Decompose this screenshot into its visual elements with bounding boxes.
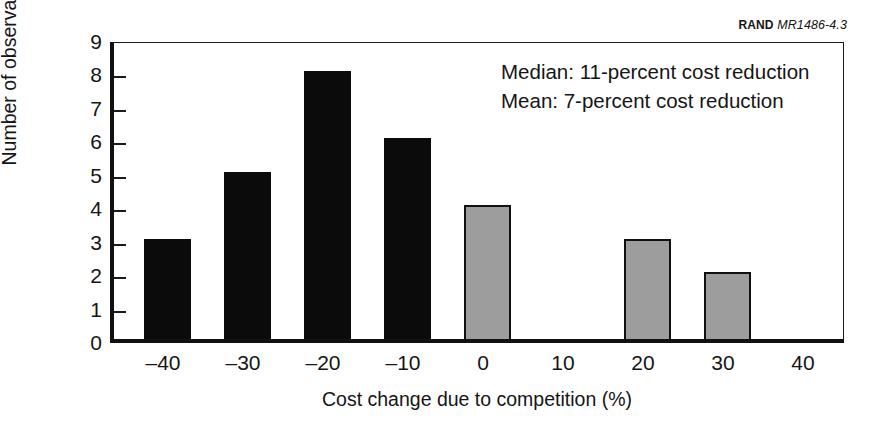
y-axis-tick-label: 4 [76,198,102,219]
mean-annotation: Mean: 7-percent cost reduction [501,86,809,115]
x-axis-tick-label: 10 [523,352,603,374]
y-axis-tick [114,177,126,179]
y-axis-tick [114,311,126,313]
x-axis-title: Cost change due to competition (%) [110,388,844,411]
x-axis-tick-label: 0 [443,352,523,374]
histogram-bar [304,71,351,339]
y-axis-tick-label: 3 [76,232,102,253]
x-axis-tick-label: 40 [763,352,843,374]
histogram-bar [624,239,671,339]
median-annotation: Median: 11-percent cost reduction [501,57,809,86]
y-axis-tick [114,244,126,246]
x-axis-tick-label: –30 [203,352,283,374]
y-axis-tick [114,76,126,78]
y-axis-tick-label: 0 [76,332,102,353]
rand-logotype: RAND [739,18,774,32]
document-id: MR1486-4.3 [777,18,847,32]
x-axis-tick-label: 20 [603,352,683,374]
y-axis-tick-label: 7 [76,98,102,119]
y-axis-tick-label: 9 [76,31,102,52]
y-axis-tick [114,110,126,112]
plot-area: Median: 11-percent cost reduction Mean: … [110,42,844,343]
histogram-bar [704,272,751,339]
histogram-bar [384,138,431,339]
y-axis-tick [114,143,126,145]
y-axis-tick-label: 2 [76,265,102,286]
histogram-bar [144,239,191,339]
histogram-bar [224,172,271,339]
x-axis-tick-label: –20 [283,352,363,374]
y-axis-title: Number of observations [0,0,21,192]
y-axis-tick-label: 8 [76,64,102,85]
x-axis-tick-label: 30 [683,352,763,374]
x-axis-tick-label: –10 [363,352,443,374]
x-axis-tick-label: –40 [123,352,203,374]
y-axis-tick-label: 6 [76,131,102,152]
y-axis-tick-label: 1 [76,299,102,320]
histogram-bar [464,205,511,339]
statistics-annotation: Median: 11-percent cost reduction Mean: … [501,57,809,115]
figure-credit: RAND MR1486-4.3 [739,18,847,32]
y-axis-tick [114,277,126,279]
y-axis-tick [114,210,126,212]
y-axis-tick-label: 5 [76,165,102,186]
